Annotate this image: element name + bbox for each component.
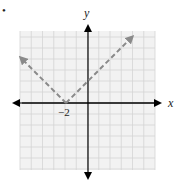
x-axis-label: x	[167, 96, 174, 110]
problem-marker: •	[2, 4, 6, 16]
tick-label-neg2: −2	[58, 106, 70, 118]
y-axis-label: y	[83, 6, 90, 20]
graph-figure: • x y −2	[0, 0, 180, 191]
